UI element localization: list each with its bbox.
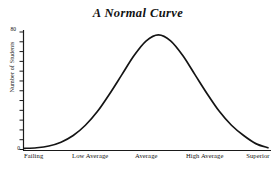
x-axis-tick-label: Low Average [72, 152, 108, 159]
plot-area [0, 0, 276, 170]
x-axis-tick-label: Failing [24, 152, 43, 159]
x-axis-tick-label: High Average [186, 152, 224, 159]
chart-figure: A Normal Curve Number of Students 80 0 F… [0, 0, 276, 170]
axis-lines [23, 30, 271, 151]
x-axis-tick-label: Average [135, 152, 158, 159]
x-axis-tick-label: Superior [246, 152, 270, 159]
normal-curve-line [25, 35, 269, 148]
x-axis-tick-labels: FailingLow AverageAverageHigh AverageSup… [23, 152, 271, 166]
